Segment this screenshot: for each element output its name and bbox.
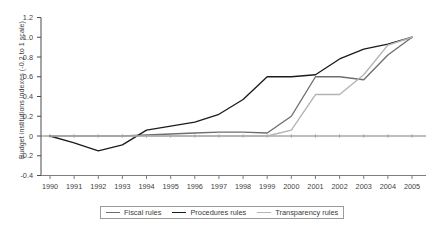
series-line-procedures-rules: [50, 37, 412, 151]
legend-line-swatch: [257, 212, 271, 213]
legend-line-swatch: [106, 212, 120, 213]
legend-line-swatch: [172, 212, 186, 213]
plot-area: [0, 0, 434, 230]
line-chart: Budget institutions indexes (-0.2 to 1 s…: [0, 0, 434, 230]
axes: [37, 18, 426, 180]
chart-legend: Fiscal rulesProcedures rulesTransparency…: [100, 206, 344, 219]
legend-label: Transparency rules: [275, 208, 338, 217]
legend-item[interactable]: Procedures rules: [172, 208, 246, 217]
legend-label: Fiscal rules: [124, 208, 161, 217]
data-series: [50, 37, 412, 151]
legend-item[interactable]: Transparency rules: [257, 208, 338, 217]
legend-label: Procedures rules: [190, 208, 246, 217]
legend-item[interactable]: Fiscal rules: [106, 208, 161, 217]
